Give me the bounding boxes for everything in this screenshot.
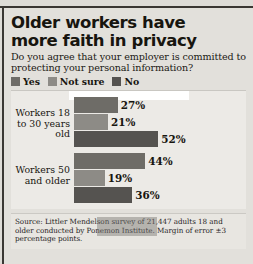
bar-set-young-workers: 27% 21% 52% [74,97,246,148]
bar-value-young-not-sure: 21% [111,116,135,128]
headline-line-1: Older workers have [11,13,185,32]
infographic-card: Older workers have more faith in privacy… [0,0,253,264]
bar-row: 36% [74,187,246,203]
bar-value-older-yes: 44% [148,155,172,167]
source-line-3: percentage points. [15,235,241,244]
bar-row: 19% [74,170,246,186]
bar-value-young-no: 52% [161,133,185,145]
bar-row: 44% [74,153,246,169]
subtitle-line-2: protecting your personal information? [11,63,246,74]
bar-group-young-workers: Workers 18 to 30 years old 27% 21% [11,97,246,152]
bar-older-no [74,187,132,203]
bar-value-older-no: 36% [135,189,159,201]
bar-group-older-workers: Workers 50 and older 44% 19% 36% [11,153,246,206]
bar-older-not-sure [74,170,105,186]
bar-value-older-not-sure: 19% [108,172,132,184]
bar-young-not-sure [74,114,108,130]
legend-item-not-sure: Not sure [48,76,105,87]
bar-young-yes [74,97,118,113]
legend-swatch-icon-yes [11,77,20,86]
subtitle-question: Do you agree that your employer is commi… [11,52,246,73]
legend-item-yes: Yes [11,76,40,87]
category-label-older-workers: Workers 50 and older [11,165,70,186]
subtitle-line-1: Do you agree that your employer is commi… [11,51,246,62]
legend-label-not-sure: Not sure [60,76,105,87]
infographic-body: Older workers have more faith in privacy… [4,8,253,264]
category-label-line: old [11,129,70,140]
source-note: Source: Littler Mendelson survey of 21,4… [11,213,246,249]
scan-artifact-smudge [97,217,157,236]
bar-row: 21% [74,114,246,130]
category-label-young-workers: Workers 18 to 30 years old [11,108,70,140]
legend-swatch-icon-no [112,77,121,86]
bar-value-young-yes: 27% [121,99,145,111]
bar-row: 52% [74,131,246,147]
category-label-line: and older [11,176,70,187]
bar-chart-plot: Workers 18 to 30 years old 27% 21% [11,90,246,209]
legend-swatch-icon-not-sure [48,77,57,86]
bar-older-yes [74,153,145,169]
legend-label-yes: Yes [23,76,40,87]
chart-legend: Yes Not sure No [11,76,246,87]
page-title: Older workers have more faith in privacy [11,14,246,49]
legend-label-no: No [124,76,139,87]
bar-young-no [74,131,158,147]
headline-line-2: more faith in privacy [11,32,246,50]
bar-set-older-workers: 44% 19% 36% [74,153,246,204]
bar-row: 27% [74,97,246,113]
legend-item-no: No [112,76,139,87]
